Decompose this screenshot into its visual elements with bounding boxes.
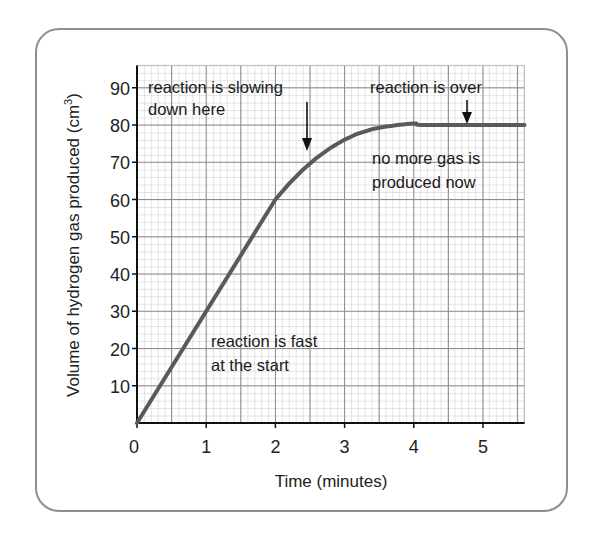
annotation-fast-line2: at the start (211, 356, 289, 374)
annotation-over: reaction is over (370, 78, 482, 96)
svg-text:5: 5 (478, 437, 488, 457)
svg-text:40: 40 (110, 265, 130, 285)
svg-text:0: 0 (129, 437, 139, 457)
annotation-no-more-line1: no more gas is (372, 149, 480, 167)
annotation-slowing-line1: reaction is slowing (148, 78, 283, 96)
x-axis-ticks: 012345 (129, 423, 488, 457)
svg-text:30: 30 (110, 302, 130, 322)
svg-text:10: 10 (110, 377, 130, 397)
svg-text:50: 50 (110, 228, 130, 248)
line-chart: 012345 102030405060708090 reaction is sl… (0, 0, 601, 534)
annotation-slowing-line2: down here (148, 100, 225, 118)
svg-text:20: 20 (110, 340, 130, 360)
annotation-no-more-line2: produced now (372, 173, 476, 191)
svg-text:1: 1 (201, 437, 211, 457)
annotation-fast-line1: reaction is fast (211, 332, 318, 350)
x-axis-title: Time (minutes) (275, 472, 388, 491)
svg-text:3: 3 (340, 437, 350, 457)
svg-text:90: 90 (110, 79, 130, 99)
svg-text:70: 70 (110, 153, 130, 173)
svg-text:2: 2 (270, 437, 280, 457)
svg-text:4: 4 (409, 437, 419, 457)
svg-text:80: 80 (110, 116, 130, 136)
y-axis-ticks: 102030405060708090 (110, 79, 137, 397)
svg-text:60: 60 (110, 191, 130, 211)
y-axis-title: Volume of hydrogen gas produced (cm3) (62, 93, 83, 397)
